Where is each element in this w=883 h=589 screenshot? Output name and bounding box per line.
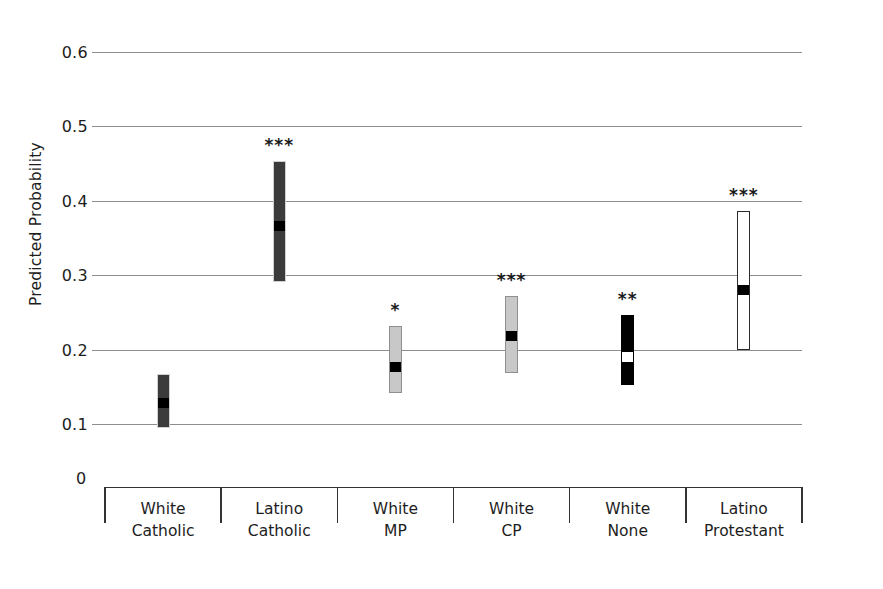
x-axis-category-line: White (605, 498, 650, 520)
x-axis-category-label: WhiteCatholic (132, 498, 195, 542)
x-axis-category-line: White (489, 498, 534, 520)
x-axis-category-layer: WhiteCatholicLatinoCatholicWhiteMPWhiteC… (0, 0, 883, 589)
predicted-probability-chart: Predicted Probability 0.60.50.40.30.20.1… (0, 0, 883, 589)
x-axis-category-label: WhiteNone (605, 498, 650, 542)
x-axis-category-label: LatinoProtestant (704, 498, 784, 542)
x-axis-category-line: Latino (704, 498, 784, 520)
x-axis-category-line: Protestant (704, 520, 784, 542)
x-axis-divider (569, 487, 570, 523)
x-axis-category-line: CP (489, 520, 534, 542)
x-axis-category-line: MP (373, 520, 418, 542)
x-axis-divider (685, 487, 686, 523)
x-axis-category-line: White (132, 498, 195, 520)
x-axis-divider (453, 487, 454, 523)
x-axis-divider (801, 487, 802, 523)
x-axis-category-line: None (605, 520, 650, 542)
x-axis-category-label: WhiteCP (489, 498, 534, 542)
x-axis-divider (220, 487, 221, 523)
x-axis-category-line: Catholic (248, 520, 311, 542)
x-axis-category-label: LatinoCatholic (248, 498, 311, 542)
x-axis-category-line: Latino (248, 498, 311, 520)
x-axis-category-line: White (373, 498, 418, 520)
x-axis-category-line: Catholic (132, 520, 195, 542)
x-axis-divider (104, 487, 105, 523)
x-axis-category-label: WhiteMP (373, 498, 418, 542)
x-axis-divider (337, 487, 338, 523)
